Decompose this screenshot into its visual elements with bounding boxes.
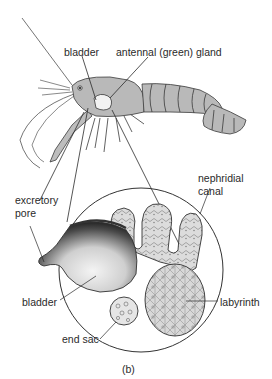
label-nephridial-canal-2: canal: [198, 185, 223, 197]
panel-label: (b): [122, 363, 135, 375]
label-excretory-pore-2: pore: [15, 207, 36, 219]
end-sac-shape: [110, 297, 138, 325]
label-end-sac: end sac: [62, 333, 99, 345]
label-labyrinth: labyrinth: [220, 296, 260, 308]
crayfish-body: [20, 18, 246, 168]
label-antennal-gland: antennal (green) gland: [116, 46, 222, 58]
labyrinth-shape: [145, 264, 205, 336]
label-nephridial-canal-1: nephridial: [198, 172, 244, 184]
label-bladder-top: bladder: [64, 46, 99, 58]
label-excretory-pore-1: excretory: [15, 194, 58, 206]
label-bladder-detail: bladder: [22, 296, 57, 308]
